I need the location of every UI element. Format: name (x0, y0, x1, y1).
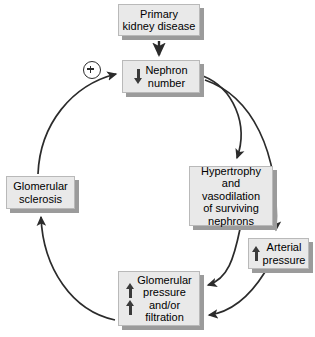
node-primary-kidney-disease-content: Primary kidney disease (119, 8, 199, 33)
node-hypertrophy-vasodilation-content: Hypertrophy and vasodilation of survivin… (190, 165, 272, 228)
increase-arrow-icon (126, 283, 135, 298)
node-glomerular-sclerosis-label: Glomerular sclerosis (13, 180, 67, 205)
increase-arrow-icon (126, 300, 135, 315)
node-glomerular-sclerosis-content: Glomerular sclerosis (7, 180, 74, 205)
edge-sclerosis-to-nephron (38, 74, 116, 174)
node-nephron-number[interactable]: Nephron number (122, 60, 200, 93)
arterial-pressure-glyph-group (252, 245, 261, 262)
nephron-number-glyph-group (134, 68, 143, 85)
node-hypertrophy-vasodilation-label: Hypertrophy and vasodilation of survivin… (193, 165, 269, 228)
plus-vertical-bar (90, 66, 92, 73)
node-glomerular-sclerosis[interactable]: Glomerular sclerosis (6, 176, 75, 209)
node-nephron-number-label: Nephron number (145, 64, 187, 89)
edge-hypertrophy-to-glomerular-pressure (208, 229, 240, 285)
node-primary-kidney-disease-label: Primary kidney disease (123, 8, 196, 33)
node-glomerular-pressure-filtration[interactable]: Glomerular pressure and/or filtration (118, 271, 200, 326)
positive-feedback-plus-icon (83, 61, 101, 79)
node-arterial-pressure-content: Arterial pressure (249, 241, 308, 266)
node-arterial-pressure-label: Arterial pressure (263, 241, 306, 266)
node-arterial-pressure[interactable]: Arterial pressure (248, 238, 309, 269)
node-glomerular-pressure-filtration-label: Glomerular pressure and/or filtration (137, 274, 191, 324)
node-primary-kidney-disease[interactable]: Primary kidney disease (118, 4, 200, 36)
node-hypertrophy-vasodilation[interactable]: Hypertrophy and vasodilation of survivin… (189, 166, 273, 226)
node-nephron-number-content: Nephron number (123, 64, 199, 89)
edge-arterial-to-glomerular-pressure (209, 272, 265, 315)
increase-arrow-icon (252, 246, 261, 261)
glomerular-pressure-glyph-group (126, 282, 135, 316)
decrease-arrow-icon (134, 69, 143, 84)
node-glomerular-pressure-filtration-content: Glomerular pressure and/or filtration (119, 274, 199, 324)
edge-glomerular-pressure-to-sclerosis (41, 217, 115, 320)
renal-injury-cycle-diagram: Primary kidney disease Nephron number Hy… (0, 0, 315, 337)
